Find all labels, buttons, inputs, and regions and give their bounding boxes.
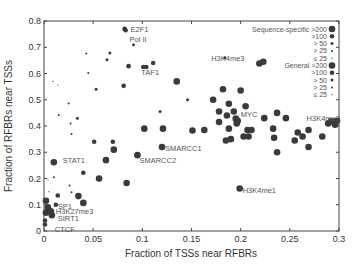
data-point [80, 200, 87, 207]
data-point [105, 58, 108, 61]
data-points [43, 27, 341, 227]
data-point [111, 146, 118, 153]
point-annotation: Pol II [130, 35, 147, 44]
x-tick-label: 0.05 [84, 234, 102, 244]
legend-marker [331, 94, 332, 95]
scatter-chart: 00.050.10.150.20.250.3 00.10.20.30.40.50… [0, 0, 361, 265]
data-point [96, 175, 103, 182]
data-point [75, 193, 82, 200]
legend-entry-label: > 50 [313, 77, 327, 84]
data-point [274, 110, 281, 117]
x-tick-label: 0.1 [136, 234, 149, 244]
data-point [69, 185, 71, 187]
data-point [233, 120, 240, 127]
x-tick-label: 0.15 [183, 234, 201, 244]
data-point [216, 119, 223, 126]
data-point [210, 96, 217, 103]
data-point [47, 179, 48, 180]
data-point [226, 125, 233, 132]
point-annotation: E2F1 [131, 25, 149, 34]
y-tick-label: 0.8 [28, 16, 41, 26]
data-point [305, 127, 312, 134]
data-point [299, 133, 306, 140]
data-point [43, 209, 50, 216]
data-point [43, 222, 48, 227]
data-point [189, 127, 196, 134]
y-tick-label: 0.2 [28, 174, 41, 184]
legend-entry-label: ≤ 25 [313, 55, 327, 62]
data-point [270, 125, 277, 132]
x-axis-title: Fraction of TSSs near RFBRs [125, 248, 257, 259]
data-point [103, 157, 110, 164]
x-tick-label: 0.25 [281, 234, 299, 244]
data-point [108, 52, 111, 55]
x-tick-label: 0.2 [234, 234, 247, 244]
data-point [48, 191, 49, 192]
data-point [51, 159, 58, 166]
data-point [160, 125, 167, 132]
legend-marker [330, 34, 335, 39]
legend-marker [331, 42, 334, 45]
data-point [85, 53, 87, 55]
legend-entry-label: ≤ 25 [313, 91, 327, 98]
plot-frame [44, 21, 339, 231]
data-point [151, 61, 156, 66]
point-annotation: SMARCC1 [165, 144, 202, 153]
data-point [271, 135, 278, 142]
data-point [230, 108, 237, 115]
legend-marker [331, 50, 333, 52]
data-point [173, 78, 180, 85]
point-annotation: H3K4me3 [211, 54, 244, 63]
point-annotation: SIRT1 [58, 214, 79, 223]
legend-entry-label: > 25 [313, 47, 327, 54]
y-axis: 00.10.20.30.40.50.60.70.8 [28, 16, 339, 236]
data-point [220, 86, 227, 93]
data-point [186, 98, 189, 101]
legend-marker [331, 58, 332, 59]
data-point [57, 84, 58, 85]
data-point [237, 87, 244, 94]
data-point [95, 88, 98, 91]
y-tick-label: 0 [36, 226, 41, 236]
point-annotation: STAT1 [63, 156, 85, 165]
data-point [283, 115, 290, 122]
data-point [43, 198, 50, 205]
data-point [76, 117, 79, 120]
y-axis-title: Fraction of RFBRs near TSSs [3, 60, 14, 192]
y-tick-label: 0.7 [28, 42, 41, 52]
x-tick-label: 0 [41, 234, 46, 244]
legend-entry-label: >100 [311, 69, 327, 76]
data-point [201, 127, 208, 134]
data-point [87, 72, 89, 74]
y-tick-label: 0.3 [28, 147, 41, 157]
data-point [224, 112, 231, 119]
data-point [274, 149, 281, 156]
y-tick-label: 0.6 [28, 69, 41, 79]
x-tick-label: 0.3 [333, 234, 346, 244]
data-point [216, 108, 223, 115]
point-annotation: SMARCC2 [139, 156, 176, 165]
y-tick-label: 0.5 [28, 95, 41, 105]
legend-marker [331, 86, 333, 88]
data-point [49, 212, 56, 219]
data-point [260, 58, 267, 65]
data-point [53, 176, 55, 178]
data-point [123, 180, 130, 187]
data-point [71, 133, 73, 135]
point-annotation: H3K4me2 [307, 114, 340, 123]
data-point [121, 84, 126, 89]
y-tick-label: 0.4 [28, 121, 41, 131]
point-annotation: CTCF [55, 225, 75, 234]
legend-marker [329, 26, 336, 33]
legend-marker [330, 71, 335, 76]
data-point [245, 133, 252, 140]
data-point [242, 103, 249, 110]
data-point [123, 28, 128, 33]
data-point [70, 122, 72, 124]
data-point [291, 137, 298, 144]
data-point [319, 133, 326, 140]
data-point [71, 191, 73, 193]
data-point [141, 125, 148, 132]
data-point [159, 110, 162, 113]
data-point [226, 100, 233, 107]
